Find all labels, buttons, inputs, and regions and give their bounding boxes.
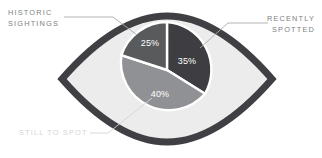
callout-label-recently-spotted: Recently Spotted	[267, 14, 315, 35]
slice-value-recently: 35%	[178, 56, 197, 66]
callout-label-historic-sightings: Historic Sightings	[8, 8, 59, 29]
eye-pie-infographic: 25% 35% 40% Historic Sightings Recently …	[0, 0, 322, 158]
callout-label-still-to-spot: Still to Spot	[19, 128, 88, 139]
slice-value-still: 40%	[151, 89, 170, 99]
slice-value-historic: 25%	[141, 38, 160, 48]
